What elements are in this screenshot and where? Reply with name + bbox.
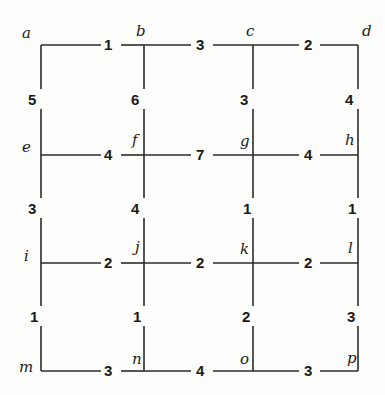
edge-weight-b-f: 6 bbox=[131, 92, 139, 107]
node-label-n: n bbox=[132, 352, 142, 367]
edge-weight-b-c: 3 bbox=[196, 37, 204, 52]
edge-weight-c-g: 3 bbox=[240, 92, 248, 107]
node-label-j: j bbox=[135, 240, 140, 255]
edge-weight-a-e: 5 bbox=[28, 92, 36, 107]
node-label-i: i bbox=[24, 249, 29, 264]
edge-weight-g-h: 4 bbox=[304, 147, 312, 162]
node-label-k: k bbox=[240, 242, 249, 257]
edge-weight-a-b: 1 bbox=[104, 37, 112, 52]
edge-weight-d-h: 4 bbox=[345, 92, 353, 107]
edge-weight-m-n: 3 bbox=[104, 363, 112, 378]
edge-weight-e-i: 3 bbox=[28, 201, 36, 216]
edge-weight-j-k: 2 bbox=[196, 255, 204, 270]
edge-weight-l-p: 3 bbox=[347, 309, 355, 324]
edge-weight-j-n: 1 bbox=[133, 309, 141, 324]
node-label-h: h bbox=[345, 133, 355, 148]
edge-weight-f-g: 7 bbox=[196, 147, 204, 162]
node-label-c: c bbox=[246, 24, 254, 39]
edge-weight-g-k: 1 bbox=[243, 201, 251, 216]
edge-weight-i-m: 1 bbox=[30, 309, 38, 324]
edge-weight-n-o: 4 bbox=[196, 363, 204, 378]
node-label-g: g bbox=[240, 134, 250, 149]
edge-weight-o-p: 3 bbox=[304, 363, 312, 378]
node-label-a: a bbox=[22, 26, 31, 41]
edge-weight-i-j: 2 bbox=[104, 255, 112, 270]
node-label-f: f bbox=[132, 133, 138, 148]
node-label-m: m bbox=[19, 360, 33, 375]
edge-weight-h-l: 1 bbox=[348, 201, 356, 216]
node-label-l: l bbox=[348, 241, 353, 256]
edge-weight-e-f: 4 bbox=[104, 147, 112, 162]
node-label-o: o bbox=[240, 352, 249, 367]
node-label-d: d bbox=[362, 24, 372, 39]
edge-weight-k-o: 2 bbox=[242, 309, 250, 324]
node-label-b: b bbox=[136, 24, 146, 39]
node-label-p: p bbox=[347, 351, 357, 366]
graph-edges-svg bbox=[0, 0, 385, 395]
node-label-e: e bbox=[22, 140, 31, 155]
edge-weight-c-d: 2 bbox=[304, 37, 312, 52]
weighted-grid-graph-figure: a b c d e f g h i j k l m n o p 1 3 2 4 … bbox=[0, 0, 385, 395]
edge-weight-f-j: 4 bbox=[131, 201, 139, 216]
edge-weight-k-l: 2 bbox=[304, 255, 312, 270]
